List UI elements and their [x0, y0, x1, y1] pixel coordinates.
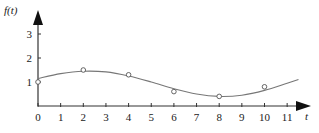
- x-tick-label: 5: [149, 111, 155, 123]
- x-tick-label: 8: [216, 111, 222, 123]
- data-point-marker: [81, 68, 86, 73]
- data-point-marker: [126, 73, 131, 78]
- axes: 01234567891011123: [27, 10, 312, 123]
- x-axis-label: t: [305, 110, 309, 122]
- y-tick-label: 3: [27, 28, 33, 40]
- x-tick-label: 0: [35, 111, 41, 123]
- data-point-marker: [217, 94, 222, 99]
- x-tick-label: 11: [282, 111, 293, 123]
- x-tick-label: 7: [194, 111, 200, 123]
- x-tick-label: 6: [171, 111, 177, 123]
- x-tick-label: 4: [126, 111, 132, 123]
- chart-svg: 01234567891011123 f(t) t: [0, 0, 319, 133]
- data-point-marker: [172, 89, 177, 94]
- x-tick-label: 3: [103, 111, 109, 123]
- y-axis-label: f(t): [4, 4, 18, 17]
- y-tick-label: 2: [27, 52, 33, 64]
- x-tick-label: 2: [81, 111, 87, 123]
- x-tick-label: 10: [259, 111, 271, 123]
- data-point-marker: [262, 85, 267, 90]
- data-point-marker: [36, 80, 41, 85]
- x-tick-label: 1: [58, 111, 64, 123]
- curve-series: [38, 71, 298, 96]
- y-tick-label: 1: [27, 76, 33, 88]
- y-axis-arrow-icon: [33, 10, 43, 25]
- fitted-curve: [38, 71, 298, 96]
- x-tick-label: 9: [239, 111, 245, 123]
- chart: 01234567891011123 f(t) t: [0, 0, 319, 133]
- x-axis-arrow-icon: [296, 101, 311, 111]
